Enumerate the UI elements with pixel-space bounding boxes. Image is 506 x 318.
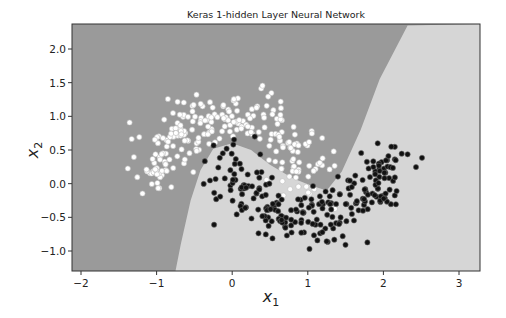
x-axis-label: x1 <box>262 287 279 309</box>
x-tick-label: −2 <box>73 277 88 289</box>
y-tick-label: 1.5 <box>49 77 66 89</box>
chart-figure: Keras 1-hidden Layer Neural Network −2−1… <box>0 0 506 318</box>
y-axis-ticks: −1.0−0.50.00.51.01.52.0 <box>41 43 73 257</box>
x-tick-label: 3 <box>456 277 463 289</box>
plot-area <box>72 24 480 271</box>
x-tick-label: 0 <box>229 277 236 289</box>
y-tick-label: 0.0 <box>49 178 66 190</box>
y-tick-label: −1.0 <box>41 245 67 257</box>
y-tick-label: 1.0 <box>49 110 66 122</box>
chart-title: Keras 1-hidden Layer Neural Network <box>187 9 365 20</box>
y-tick-label: 2.0 <box>49 43 66 55</box>
y-axis-label: x2 <box>23 142 45 159</box>
x-tick-label: 1 <box>304 277 311 289</box>
x-tick-label: 2 <box>380 277 387 289</box>
x-tick-label: −1 <box>149 277 164 289</box>
y-tick-label: 0.5 <box>49 144 66 156</box>
y-tick-label: −0.5 <box>41 211 67 223</box>
